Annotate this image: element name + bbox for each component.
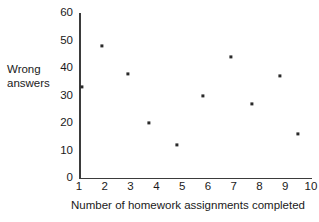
data-point [126, 72, 129, 75]
data-point [278, 75, 281, 78]
x-axis-title: Number of homework assignments completed [62, 199, 314, 212]
scatter-plot-figure: Wrong answers 0102030405060 12345678910 … [0, 0, 319, 222]
data-point [80, 86, 83, 89]
data-point [229, 55, 232, 58]
data-point [201, 94, 204, 97]
data-point [147, 121, 150, 124]
data-point [297, 132, 300, 135]
data-point [175, 143, 178, 146]
plot-area [0, 0, 319, 222]
data-point [101, 44, 104, 47]
data-point [250, 102, 253, 105]
